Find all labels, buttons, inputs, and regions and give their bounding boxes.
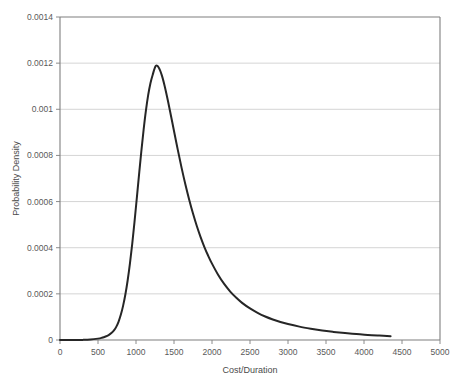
- x-tick-label: 5000: [431, 347, 450, 357]
- x-tick-label: 3500: [317, 347, 336, 357]
- x-tick-label: 1000: [127, 347, 146, 357]
- x-axis-title: Cost/Duration: [222, 365, 277, 375]
- x-tick-label: 0: [58, 347, 63, 357]
- y-tick-label: 0.0006: [27, 197, 53, 207]
- x-tick-label: 4000: [355, 347, 374, 357]
- x-tick-label: 3000: [279, 347, 298, 357]
- chart-container: 00.00020.00040.00060.00080.0010.00120.00…: [0, 0, 464, 387]
- plot-background: [60, 17, 440, 340]
- y-tick-label: 0.0012: [27, 58, 53, 68]
- x-tick-label: 1500: [165, 347, 184, 357]
- y-axis-ticks: [56, 17, 60, 340]
- y-tick-label: 0.0004: [27, 243, 53, 253]
- y-axis-tick-labels: 00.00020.00040.00060.00080.0010.00120.00…: [27, 12, 53, 345]
- y-tick-label: 0.001: [32, 104, 54, 114]
- x-tick-label: 500: [91, 347, 105, 357]
- x-axis-tick-labels: 0500100015002000250030003500400045005000: [58, 347, 450, 357]
- y-tick-label: 0.0008: [27, 150, 53, 160]
- y-tick-label: 0.0014: [27, 12, 53, 22]
- y-axis-title: Probability Density: [11, 141, 21, 216]
- x-axis-ticks: [60, 340, 440, 344]
- x-tick-label: 2000: [203, 347, 222, 357]
- y-tick-label: 0: [48, 335, 53, 345]
- y-tick-label: 0.0002: [27, 289, 53, 299]
- probability-density-chart: 00.00020.00040.00060.00080.0010.00120.00…: [0, 0, 464, 387]
- x-tick-label: 4500: [393, 347, 412, 357]
- x-tick-label: 2500: [241, 347, 260, 357]
